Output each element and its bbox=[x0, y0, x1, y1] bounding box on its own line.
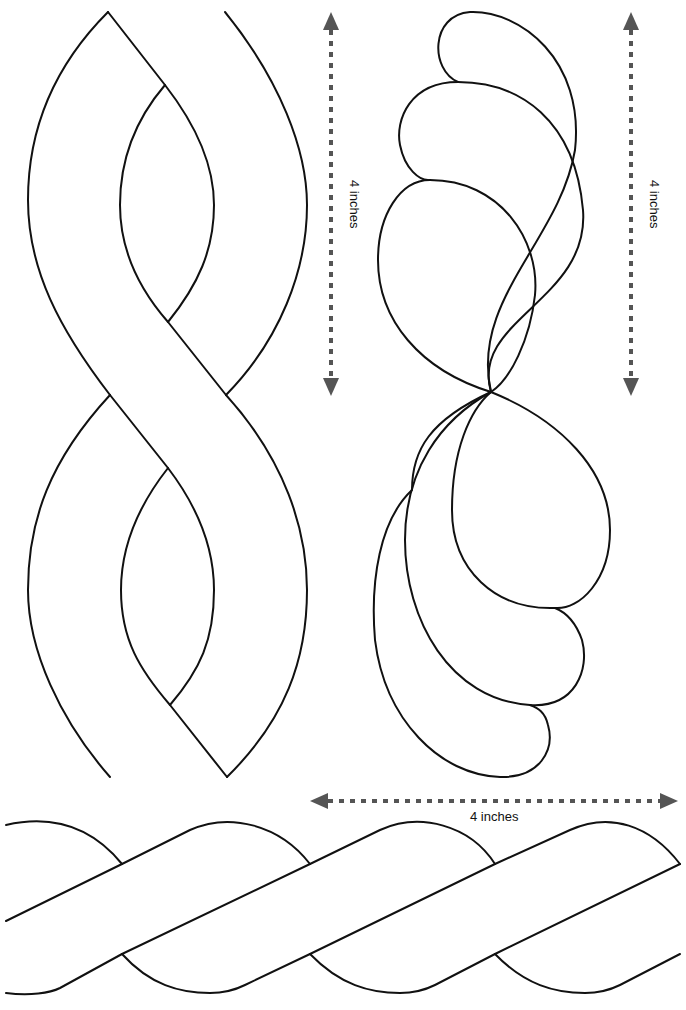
dimension-label-bottom: 4 inches bbox=[470, 809, 518, 824]
rope-pattern bbox=[6, 821, 680, 994]
dimension-label-right: 4 inches bbox=[647, 180, 662, 228]
dimension-left-vertical bbox=[323, 12, 339, 396]
feather-pattern bbox=[374, 12, 610, 777]
cable-pattern bbox=[28, 12, 307, 777]
stencil-drawing bbox=[0, 0, 686, 1010]
dimension-bottom-horizontal bbox=[310, 793, 678, 809]
dimension-label-left: 4 inches bbox=[347, 180, 362, 228]
dimension-right-vertical bbox=[623, 12, 639, 396]
